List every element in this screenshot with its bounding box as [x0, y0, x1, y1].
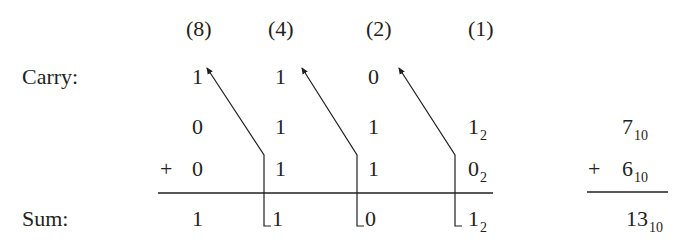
decimal-plus-sign: + [588, 158, 600, 180]
addend1-digit-1: 12 [468, 116, 487, 141]
addend1-digit-4: 1 [275, 116, 286, 138]
decimal-addend1: 710 [622, 116, 648, 141]
sum-digit-8: 1 [192, 208, 203, 230]
plus-sign: + [160, 158, 172, 180]
base-subscript: 10 [649, 220, 663, 235]
sum-digit-4: 1 [272, 208, 283, 230]
place-value-2: (2) [366, 18, 392, 40]
decimal-addend2: 610 [622, 158, 648, 183]
carry-label: Carry: [22, 66, 78, 88]
addend2-digit-8: 0 [192, 158, 203, 180]
sum-label: Sum: [22, 208, 68, 230]
decimal-sum: 1310 [626, 208, 663, 233]
carry-digit-4: 1 [275, 66, 286, 88]
base-subscript: 2 [480, 220, 487, 235]
addend2-digit-1: 02 [468, 158, 487, 183]
addend2-digit-4: 1 [275, 158, 286, 180]
place-value-8: (8) [186, 18, 212, 40]
base-subscript: 10 [634, 170, 648, 185]
addend2-digit-2: 1 [368, 158, 379, 180]
carry-arrows-overlay [0, 0, 679, 240]
carry-digit-2: 0 [368, 66, 379, 88]
place-value-4: (4) [268, 18, 294, 40]
base-subscript: 10 [634, 128, 648, 143]
sum-digit-1: 12 [468, 208, 487, 233]
sum-digit-2: 0 [365, 208, 376, 230]
base-subscript: 2 [480, 128, 487, 143]
carry-digit-8: 1 [192, 66, 203, 88]
carry-arrow-2-to-4 [302, 68, 364, 226]
place-value-1: (1) [468, 18, 494, 40]
addend1-digit-8: 0 [192, 116, 203, 138]
carry-arrow-1-to-2 [399, 68, 462, 226]
base-subscript: 2 [480, 170, 487, 185]
carry-arrow-4-to-8 [207, 68, 271, 226]
addend1-digit-2: 1 [368, 116, 379, 138]
